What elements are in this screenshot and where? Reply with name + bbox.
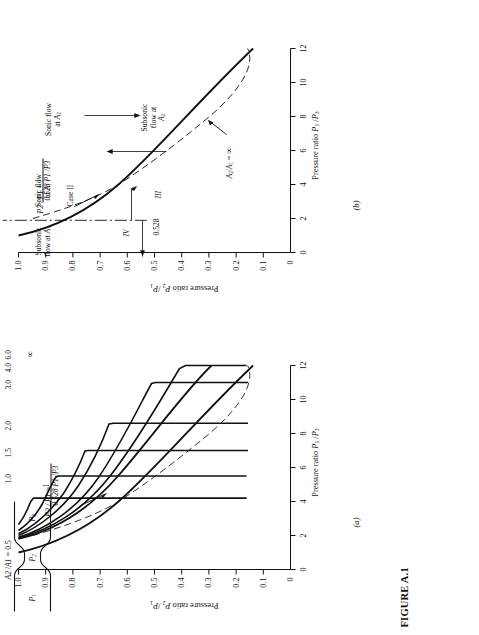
plot-a-svg [18, 347, 318, 569]
xtick-b-6: 12 [298, 38, 307, 58]
xtick-b-3: 6 [298, 140, 307, 160]
figure-page: P1 P2 P3 [0, 0, 479, 635]
curve-label-a-1-5: 1.5 [4, 448, 13, 458]
ytick-a-10: 0 [285, 577, 294, 597]
ytick-b-0: 1.0 [13, 260, 22, 280]
ytick-a-4: 0.6 [122, 577, 131, 597]
ytick-b-7: 0.3 [203, 260, 212, 280]
y-axis-title-b: Pressure ratio P2 /P1 [150, 283, 218, 292]
ytick-b-9: 0.1 [258, 260, 267, 280]
curve-label-a-4-0: 4.0 [4, 363, 13, 373]
x-axis-title-b: Pressure ratio P1 /P3 [310, 80, 319, 210]
xtick-a-0: 0 [298, 559, 307, 579]
label-subsonic-a1: Subsonicflow at A1 [34, 216, 51, 266]
xtick-b-5: 10 [298, 72, 307, 92]
x-axis-title-a: Pressure ratio P1 /P3 [310, 397, 319, 527]
xtick-b-4: 8 [298, 106, 307, 126]
ytick-a-7: 0.3 [203, 577, 212, 597]
ytick-a-8: 0.2 [231, 577, 240, 597]
xtick-b-1: 2 [298, 208, 307, 228]
label-sonic-a1: Sonic flowat A1 [34, 164, 51, 216]
nozzle-label-p1: P1 [28, 594, 37, 601]
critical-formula-a-frac: 1 0.528 P1 /P3 [42, 463, 59, 507]
ytick-a-9: 0.1 [258, 577, 267, 597]
curve-label-a-inf: ∞ [24, 351, 34, 357]
ytick-a-2: 0.8 [67, 577, 76, 597]
label-sonic-value: 0.528 [152, 218, 161, 235]
ytick-a-5: 0.5 [149, 577, 158, 597]
xtick-a-5: 10 [298, 389, 307, 409]
panel-b: P2 / P1 = 1 0.528 P1 /P3 Case II Case I … [0, 10, 440, 310]
ytick-b-4: 0.6 [122, 260, 131, 280]
label-subsonic-a2: Subsonicflow atA2 [140, 94, 166, 140]
ytick-a-3: 0.7 [95, 577, 104, 597]
xtick-a-3: 6 [298, 457, 307, 477]
xtick-a-6: 12 [298, 355, 307, 375]
xtick-a-4: 8 [298, 423, 307, 443]
xtick-b-2: 4 [298, 174, 307, 194]
ytick-b-1: 0.9 [40, 260, 49, 280]
ytick-b-6: 0.4 [176, 260, 185, 280]
panel-a: P1 P2 P3 [0, 327, 440, 627]
ytick-b-8: 0.2 [231, 260, 240, 280]
panel-a-label: (a) [350, 517, 360, 527]
curve-label-a-3-0: 3.0 [4, 380, 13, 390]
critical-formula-a-den: 0.528 P1 /P3 [51, 463, 59, 507]
label-case-ii: Case II [66, 184, 75, 206]
xtick-b-0: 0 [298, 242, 307, 262]
ytick-b-5: 0.5 [149, 260, 158, 280]
ytick-a-6: 0.4 [176, 577, 185, 597]
plot-b: P2 / P1 = 1 0.528 P1 /P3 Case II Case I … [18, 30, 318, 252]
ytick-a-0: 1.0 [13, 577, 22, 597]
rotated-figure-canvas: P1 P2 P3 [0, 0, 479, 635]
curve-label-a-0-5: A2 /A1 = 0.5 [4, 540, 13, 579]
panel-b-label: (b) [350, 200, 360, 210]
ytick-b-10: 0 [285, 260, 294, 280]
label-sonic-a2: Sonic flowat A2 [44, 94, 61, 144]
curve-label-a-1-0: 1.0 [4, 474, 13, 484]
plot-a: P2 / P1 = 1 0.528 P1 /P3 A2 /A1 = 0.5 1.… [18, 347, 318, 569]
y-axis-title-a: Pressure ratio P2 /P1 [150, 600, 218, 609]
plot-b-svg [18, 30, 318, 252]
curve-label-a-6-0: 6.0 [4, 350, 13, 360]
curve-label-a-2-0: 2.0 [4, 421, 13, 431]
ytick-b-2: 0.8 [67, 260, 76, 280]
xtick-a-2: 4 [298, 491, 307, 511]
label-inf-curve-b: A2/A1 = ∞ [223, 147, 234, 178]
xtick-a-1: 2 [298, 525, 307, 545]
label-region-iii: III [154, 190, 163, 198]
ytick-b-3: 0.7 [95, 260, 104, 280]
ytick-a-1: 0.9 [40, 577, 49, 597]
label-region-iv: IV [122, 229, 131, 236]
figure-caption: FIGURE A.1 [398, 567, 409, 627]
